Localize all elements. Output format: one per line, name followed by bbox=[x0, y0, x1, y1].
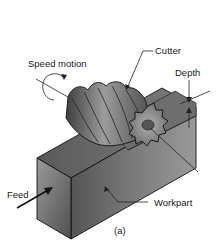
figure-caption: (a) bbox=[114, 225, 126, 236]
label-workpart: Workpart bbox=[154, 197, 193, 208]
speed-motion-indicator bbox=[36, 74, 68, 100]
milling-diagram: Cutter Speed motion Depth Feed Workpart … bbox=[0, 0, 222, 250]
label-cutter: Cutter bbox=[155, 45, 181, 56]
label-feed: Feed bbox=[7, 189, 29, 200]
label-depth: Depth bbox=[175, 67, 200, 78]
cutter-arbor-hole bbox=[142, 120, 154, 130]
cutter-leader bbox=[125, 51, 153, 90]
rotation-arrowhead-icon bbox=[61, 74, 67, 80]
label-speed-motion: Speed motion bbox=[28, 58, 87, 69]
